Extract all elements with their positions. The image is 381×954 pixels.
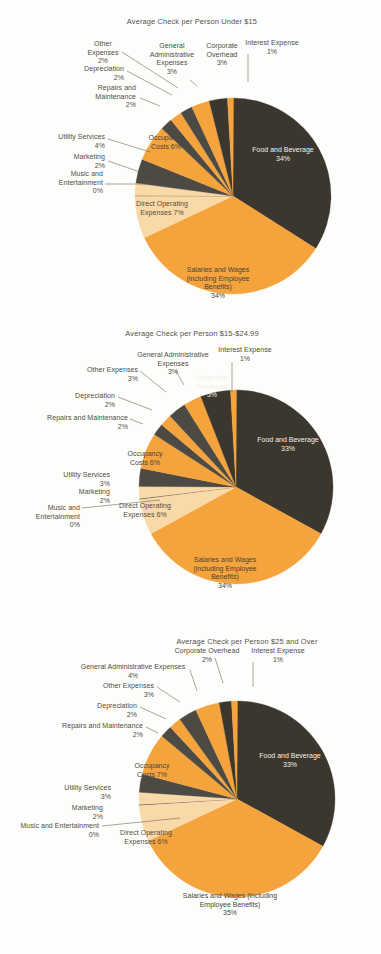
chart-title: Average Check per Person $25 and Over (177, 637, 318, 646)
slice-label-text: Repairs andMaintenance2% (95, 84, 136, 108)
slice-label-text: Utility Services4% (58, 133, 105, 149)
slice-label-text: General AdministrativeExpenses3% (137, 351, 209, 375)
slice-label-text: OtherExpenses2% (87, 40, 119, 64)
label-leader-line (108, 161, 140, 172)
label-leader-line (140, 707, 166, 719)
pie-chart-svg: Average Check per Person Under $15Food a… (0, 0, 381, 320)
slice-label-text: OccupancyCosts 6% (127, 450, 163, 466)
label-leader-line (140, 98, 160, 106)
label-leader-line (190, 80, 197, 86)
label-leader-line (146, 727, 158, 733)
chart-title: Average Check per Person $15-$24.99 (125, 329, 258, 338)
slice-label-text: Depreciation2% (84, 65, 124, 81)
slice-label-text: Music andEntertainment0% (36, 504, 80, 528)
slice-label-text: CorporateOverhead3% (206, 42, 238, 66)
slice-label-text: Marketing2% (74, 153, 105, 169)
slice-label-text: Depreciation2% (97, 702, 137, 718)
slice-label-text: Interest Expense1% (245, 39, 298, 55)
label-leader-line (215, 658, 223, 683)
label-leader-line (140, 371, 166, 392)
slice-label-text: Marketing2% (79, 488, 110, 504)
slice-label-text: Salaries and Wages (includingEmployee Be… (183, 892, 277, 916)
slice-label-text: Music and Entertainment0% (20, 822, 99, 838)
slice-label-text: Interest Expense1% (251, 647, 304, 663)
pie-slices (135, 98, 331, 294)
pie-chart-svg: Average Check per Person $15-$24.99Food … (0, 320, 381, 632)
slice-label-text: Direct OperatingExpenses 6% (120, 829, 172, 846)
chart-title: Average Check per Person Under $15 (127, 17, 257, 26)
slice-label-text: Interest Expense1% (218, 346, 271, 362)
label-leader-line (108, 139, 150, 152)
slice-label-text: Repairs and Maintenance2% (47, 414, 128, 430)
slice-label-text: Other Expenses3% (103, 682, 154, 698)
slice-label-text: Corporate Overhead2% (175, 647, 240, 663)
slice-label-text: Utility Services3% (63, 471, 110, 487)
pie-chart-svg: Average Check per Person $25 and OverFoo… (0, 632, 381, 954)
label-leader-line (190, 670, 197, 691)
slice-label-text: OccupancyCosts 6% (148, 134, 184, 150)
pie-chart-15-to-24: Average Check per Person $15-$24.99Food … (0, 320, 381, 632)
slice-label-text: Depreciation2% (75, 392, 115, 408)
slice-label-text: OccupancyCosts 7% (134, 762, 170, 778)
label-leader-line (127, 71, 172, 95)
slice-label-text: Marketing2% (72, 804, 103, 820)
slice-label-text: Utility Services3% (64, 784, 111, 800)
slice-label-text: GeneralAdministrativeExpenses3% (150, 42, 195, 75)
label-leader-line (130, 419, 143, 424)
slice-label-text: General Administrative Expenses4% (81, 663, 186, 679)
slice-label-text: Other Expenses3% (87, 366, 138, 382)
pie-chart-under-15: Average Check per Person Under $15Food a… (0, 0, 381, 320)
pie-slices (139, 390, 333, 584)
pie-chart-25-and-over: Average Check per Person $25 and OverFoo… (0, 632, 381, 954)
label-leader-line (118, 397, 152, 410)
pie-slices (139, 701, 335, 897)
label-leader-line (157, 687, 180, 702)
slice-label-text: Direct OperatingExpenses 7% (136, 200, 188, 217)
slice-label-text: Music andEntertainment0% (59, 170, 103, 194)
slice-label-text: Repairs and Maintenance2% (62, 722, 143, 738)
slice-label-text: Direct OperatingExpenses 6% (119, 502, 171, 519)
